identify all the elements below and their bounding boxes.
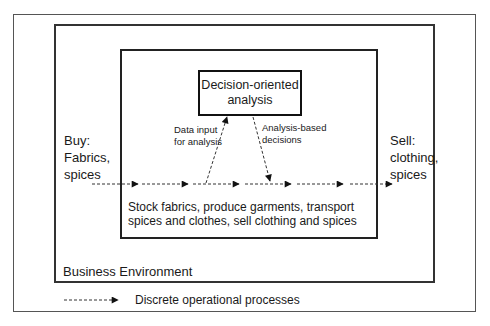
business-environment-label: Business Environment [63, 263, 192, 280]
data-input-label: Data input for analysis [174, 124, 222, 148]
legend-label: Discrete operational processes [135, 293, 300, 307]
operations-text: Stock fabrics, produce garments, transpo… [128, 200, 357, 228]
sell-label: Sell: clothing, spices [390, 132, 438, 183]
analysis-decisions-label: Analysis-based decisions [262, 122, 326, 146]
buy-label: Buy: Fabrics, spices [64, 132, 110, 183]
